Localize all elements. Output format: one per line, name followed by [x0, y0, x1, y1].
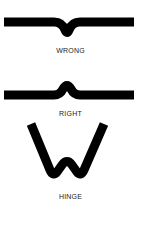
hinge-label: HINGE — [0, 193, 141, 200]
right-label: RIGHT — [0, 110, 141, 117]
wrong-label: WRONG — [0, 47, 141, 54]
hinge-w-shape — [31, 124, 104, 174]
right-bend-shape — [4, 86, 134, 96]
wrong-bend-shape — [4, 22, 134, 33]
